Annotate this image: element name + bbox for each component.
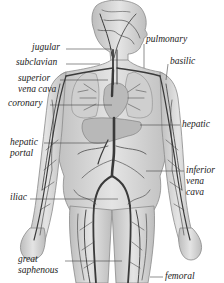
label-iliac: iliac bbox=[10, 192, 27, 203]
label-subclavian: subclavian bbox=[16, 57, 57, 68]
label-superior-vena-cava: superior vena cava bbox=[18, 73, 56, 95]
label-basilic: basilic bbox=[170, 56, 195, 67]
label-superior-vena-cava-line2: vena cava bbox=[18, 84, 56, 95]
label-inferior-vena-cava: inferior vena cava bbox=[186, 165, 215, 198]
label-inferior-vena-cava-line1: inferior bbox=[186, 165, 215, 176]
label-femoral: femoral bbox=[165, 271, 195, 282]
label-hepatic-portal-line2: portal bbox=[10, 148, 38, 159]
label-hepatic: hepatic bbox=[182, 119, 210, 130]
label-hepatic-portal: hepatic portal bbox=[10, 137, 38, 159]
anatomy-diagram: jugular subclavian superior vena cava co… bbox=[0, 0, 224, 283]
label-inferior-vena-cava-line2: vena bbox=[186, 176, 215, 187]
label-pulmonary: pulmonary bbox=[146, 34, 187, 45]
label-great-saphenous: great saphenous bbox=[18, 254, 58, 276]
label-jugular: jugular bbox=[32, 42, 60, 53]
label-inferior-vena-cava-line3: cava bbox=[186, 187, 215, 198]
label-great-saphenous-line2: saphenous bbox=[18, 265, 58, 276]
label-superior-vena-cava-line1: superior bbox=[18, 73, 56, 84]
label-great-saphenous-line1: great bbox=[18, 254, 58, 265]
label-hepatic-portal-line1: hepatic bbox=[10, 137, 38, 148]
label-coronary: coronary bbox=[8, 98, 42, 109]
